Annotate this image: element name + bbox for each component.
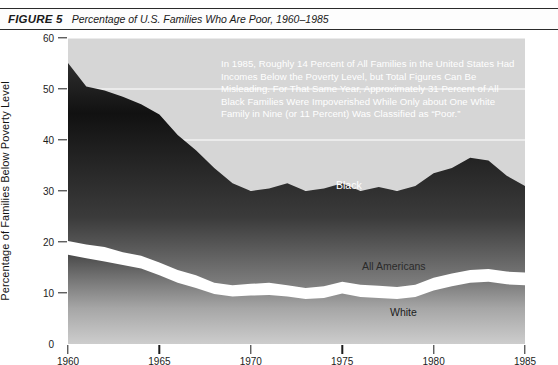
y-tick-mark-60: [58, 37, 67, 38]
y-tick-label-30: 30: [28, 186, 54, 197]
x-tick-label-1985: 1985: [514, 356, 536, 365]
y-tick-label-10: 10: [28, 288, 54, 299]
x-tick-mark-1985: [524, 345, 525, 354]
x-tick-mark-1965: [159, 345, 160, 354]
y-tick-mark-50: [58, 88, 67, 89]
x-tick-mark-1975: [341, 345, 342, 354]
y-tick-label-20: 20: [28, 237, 54, 248]
x-tick-mark-1980: [433, 345, 434, 354]
x-tick-mark-1970: [250, 345, 251, 354]
figure-title: Percentage of U.S. Families Who Are Poor…: [72, 13, 329, 25]
y-tick-mark-30: [58, 190, 67, 191]
y-axis-title: Percentage of Families Below Poverty Lev…: [0, 38, 13, 344]
y-tick-label-60: 60: [28, 33, 54, 44]
y-tick-label-40: 40: [28, 135, 54, 146]
series-label-all-americans: All Americans: [362, 260, 426, 272]
chart-container: Percentage of Families Below Poverty Lev…: [0, 30, 558, 365]
x-tick-label-1970: 1970: [240, 356, 262, 365]
series-label-black: Black: [336, 179, 362, 191]
x-tick-label-1960: 1960: [57, 356, 79, 365]
y-tick-label-0: 0: [28, 339, 54, 350]
y-tick-mark-20: [58, 241, 67, 242]
figure-caption-bar: FIGURE 5 Percentage of U.S. Families Who…: [0, 8, 558, 30]
y-tick-mark-40: [58, 139, 67, 140]
figure-number-label: FIGURE 5: [8, 13, 63, 25]
chart-annotation-text: In 1985, Roughly 14 Percent of All Famil…: [221, 58, 521, 121]
y-tick-label-50: 50: [28, 84, 54, 95]
plot-area: In 1985, Roughly 14 Percent of All Famil…: [68, 38, 525, 344]
x-tick-mark-1960: [67, 345, 68, 354]
y-tick-mark-10: [58, 292, 67, 293]
x-tick-label-1975: 1975: [331, 356, 353, 365]
x-tick-label-1965: 1965: [148, 356, 170, 365]
x-tick-label-1980: 1980: [422, 356, 444, 365]
series-label-white: White: [390, 306, 417, 318]
